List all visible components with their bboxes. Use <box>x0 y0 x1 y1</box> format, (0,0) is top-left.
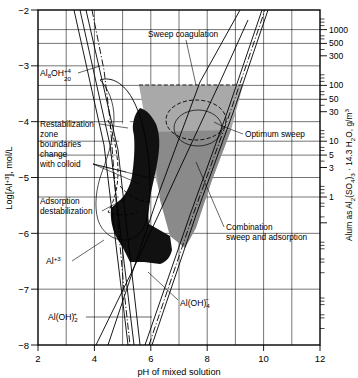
x-tick-label: 8 <box>205 353 210 364</box>
annotation-line: boundaries <box>40 139 81 149</box>
y2-tick-label: 30 <box>329 107 339 117</box>
y2-tick-label: 50 <box>329 94 339 104</box>
y2-title-s5: 3 <box>343 109 350 113</box>
annotation-line: with colloid <box>39 159 81 169</box>
aloh2-sub: 2 <box>74 316 78 323</box>
y-tick-label: −3 <box>18 60 29 71</box>
aloh2-p1: Al(OH) <box>48 312 74 322</box>
alum-coagulation-diagram: −2 −3 −4 −5 −6 −7 −8 Log[Al+3], mol/L <box>0 0 358 378</box>
aloh4-sup: − <box>205 296 209 303</box>
y2-tick-label: 300 <box>329 51 344 61</box>
annotation-label: Sweep coagulation <box>148 29 219 39</box>
y2-title-p1: Alum as Al <box>344 201 354 241</box>
y2-tick-label: 100 <box>329 80 344 90</box>
x-tick-label: 10 <box>258 353 269 364</box>
al3-sup: +3 <box>54 255 62 262</box>
annotation-label: Optimum sweep <box>245 129 305 139</box>
y2-tick-label: 10 <box>329 136 339 146</box>
y2-tick-label: 1000 <box>329 25 348 35</box>
y-tick-label: −4 <box>18 116 29 127</box>
y2-tick-label: 3 <box>329 163 334 173</box>
y2-title-p5: O, g/m <box>344 113 354 138</box>
svg-text:Al(OH)4−: Al(OH)4− <box>180 296 210 309</box>
aloh4-p1: Al(OH) <box>180 298 206 308</box>
y-tick-label: −2 <box>18 5 29 16</box>
annotation-line: Combination <box>226 222 273 232</box>
annotation-line: change <box>40 149 68 159</box>
x-tick-label: 4 <box>92 353 97 364</box>
x-tick-label: 2 <box>35 353 40 364</box>
y-axis-title-pre: Log[Al <box>4 184 14 210</box>
annotation-line: sweep and adsorption <box>226 232 308 242</box>
al8oh20-sup: +4 <box>64 67 72 74</box>
annotation-line: Restabilization <box>40 119 94 129</box>
al3-p1: Al <box>46 256 54 266</box>
x-tick-label: 6 <box>148 353 153 364</box>
al8oh20-p1: Al <box>40 68 48 78</box>
svg-text:Al(OH)2+: Al(OH)2+ <box>48 310 78 323</box>
y2-tick-label: 1 <box>329 192 334 202</box>
y-tick-label: −8 <box>18 340 29 351</box>
y2-title-p2: (SO <box>344 182 354 197</box>
y2-title-p4: · 14.3 H <box>344 141 354 173</box>
aloh2-sup: + <box>73 310 77 317</box>
y-axis-title-post: ], mol/L <box>4 146 14 176</box>
y2-tick-label: 5 <box>329 150 334 160</box>
aloh4-sub: 4 <box>206 302 210 309</box>
x-tick-label: 12 <box>315 353 326 364</box>
y2-tick-label: 500 <box>329 38 344 48</box>
y-tick-label: −7 <box>18 284 29 295</box>
y-tick-label: −6 <box>18 228 29 239</box>
al8oh20-sub: 20 <box>64 75 71 82</box>
annotation-line: zone <box>40 129 58 139</box>
annotation-line: Adsorption <box>40 196 80 206</box>
y-tick-label: −5 <box>18 172 29 183</box>
annotation-line: destabilization <box>40 206 93 216</box>
al8oh20-p2: OH <box>51 68 64 78</box>
x-axis-title: pH of mixed solution <box>137 367 220 377</box>
